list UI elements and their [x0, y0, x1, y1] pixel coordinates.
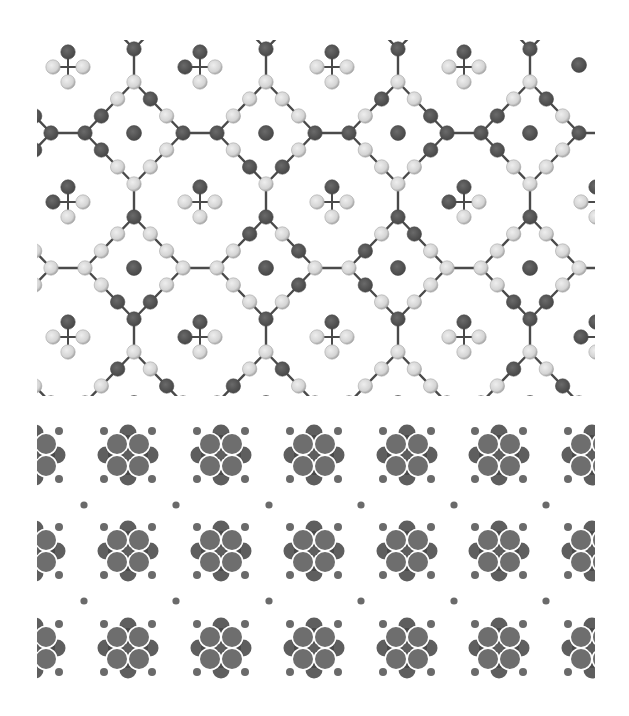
atom-cluster — [377, 425, 438, 486]
light-atom — [291, 143, 305, 157]
light-atom — [308, 261, 322, 275]
bond — [85, 352, 134, 396]
light-atom — [242, 92, 256, 106]
dark-atom — [325, 45, 339, 59]
light-atom — [340, 60, 354, 74]
light-atom — [76, 195, 90, 209]
light-atom — [523, 177, 537, 191]
light-atom — [208, 330, 222, 344]
bond — [530, 352, 579, 396]
bond — [481, 133, 530, 184]
atom-cluster — [284, 425, 345, 486]
light-atom — [490, 278, 504, 292]
bond — [37, 40, 51, 49]
light-atom — [127, 75, 141, 89]
bond — [37, 133, 51, 184]
light-atom — [440, 261, 454, 275]
light-atom — [208, 60, 222, 74]
light-atom — [474, 261, 488, 275]
light-atom — [76, 330, 90, 344]
light-atom — [210, 261, 224, 275]
light-atom — [291, 379, 305, 393]
light-atom — [457, 210, 471, 224]
atoms-layer — [37, 40, 595, 396]
light-atom — [193, 345, 207, 359]
light-atom — [110, 160, 124, 174]
dark-atom — [193, 315, 207, 329]
dark-atom — [275, 362, 289, 376]
dark-atom — [210, 126, 224, 140]
light-atom — [259, 75, 273, 89]
dark-atom — [523, 210, 537, 224]
dark-atom — [308, 126, 322, 140]
light-atom — [523, 75, 537, 89]
dark-atom — [127, 396, 142, 397]
dark-atom — [325, 180, 339, 194]
ball-and-stick-framework-panel — [37, 40, 595, 396]
bond — [349, 82, 398, 133]
dark-atom — [407, 227, 421, 241]
light-atom — [423, 278, 437, 292]
dark-atom — [423, 143, 437, 157]
light-atom — [143, 362, 157, 376]
interstitial-atom — [450, 501, 457, 508]
dark-atom — [176, 126, 190, 140]
light-atom — [94, 244, 108, 258]
dark-atom — [358, 244, 372, 258]
dark-atom — [325, 315, 339, 329]
interstitial-atom — [357, 597, 364, 604]
dark-atom — [523, 126, 538, 141]
light-atom — [391, 345, 405, 359]
light-atom — [407, 362, 421, 376]
interstitial-atom — [265, 597, 272, 604]
light-atom — [589, 345, 595, 359]
light-atom — [407, 92, 421, 106]
atom-cluster — [469, 521, 530, 582]
dark-atom — [457, 180, 471, 194]
dark-atom — [110, 295, 124, 309]
bond — [134, 268, 183, 319]
dark-atom — [391, 261, 406, 276]
dark-atom — [523, 261, 538, 276]
light-atom — [242, 295, 256, 309]
space-filling-cluster-panel — [37, 420, 595, 685]
dark-atom — [44, 126, 58, 140]
light-atom — [472, 195, 486, 209]
bond — [37, 82, 51, 133]
dark-atom — [61, 315, 75, 329]
bond — [349, 217, 398, 268]
interstitial-atom — [172, 597, 179, 604]
atom-cluster — [191, 425, 252, 486]
light-atom — [457, 75, 471, 89]
bond — [266, 217, 315, 268]
atom-cluster — [562, 521, 596, 582]
atom-cluster — [469, 425, 530, 486]
light-atom — [506, 227, 520, 241]
light-atom — [555, 143, 569, 157]
light-atom — [574, 195, 588, 209]
dark-atom — [242, 160, 256, 174]
light-atom — [442, 330, 456, 344]
dark-atom — [178, 330, 192, 344]
bond — [530, 133, 579, 184]
bond — [217, 352, 266, 396]
bond — [530, 268, 579, 319]
atom-cluster — [98, 425, 159, 486]
interstitial-atom — [80, 501, 87, 508]
light-atom — [159, 143, 173, 157]
atom-cluster — [37, 618, 66, 679]
atom-cluster — [98, 521, 159, 582]
bond — [134, 133, 183, 184]
dark-atom — [589, 180, 595, 194]
bond — [398, 82, 447, 133]
atom-cluster — [284, 618, 345, 679]
dark-atom — [342, 126, 356, 140]
atom-cluster — [377, 618, 438, 679]
interstitial-atom — [450, 597, 457, 604]
light-atom — [61, 210, 75, 224]
light-atom — [374, 295, 388, 309]
dark-atom — [159, 379, 173, 393]
bond — [217, 268, 266, 319]
atom-cluster — [37, 425, 66, 486]
dark-atom — [178, 60, 192, 74]
